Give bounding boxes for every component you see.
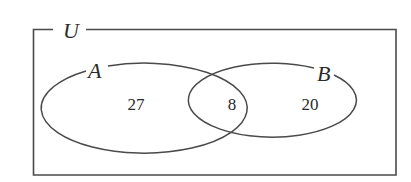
region-a-only-count: 27 xyxy=(128,95,146,114)
universe-label: U xyxy=(63,18,81,43)
region-intersection-count: 8 xyxy=(228,95,237,114)
set-b-ellipse xyxy=(188,63,356,137)
set-a-label: A xyxy=(86,58,102,83)
universe-box xyxy=(34,30,397,176)
venn-diagram: U A B 27 8 20 xyxy=(0,0,411,182)
region-b-only-count: 20 xyxy=(302,95,319,114)
set-b-label: B xyxy=(317,61,330,86)
